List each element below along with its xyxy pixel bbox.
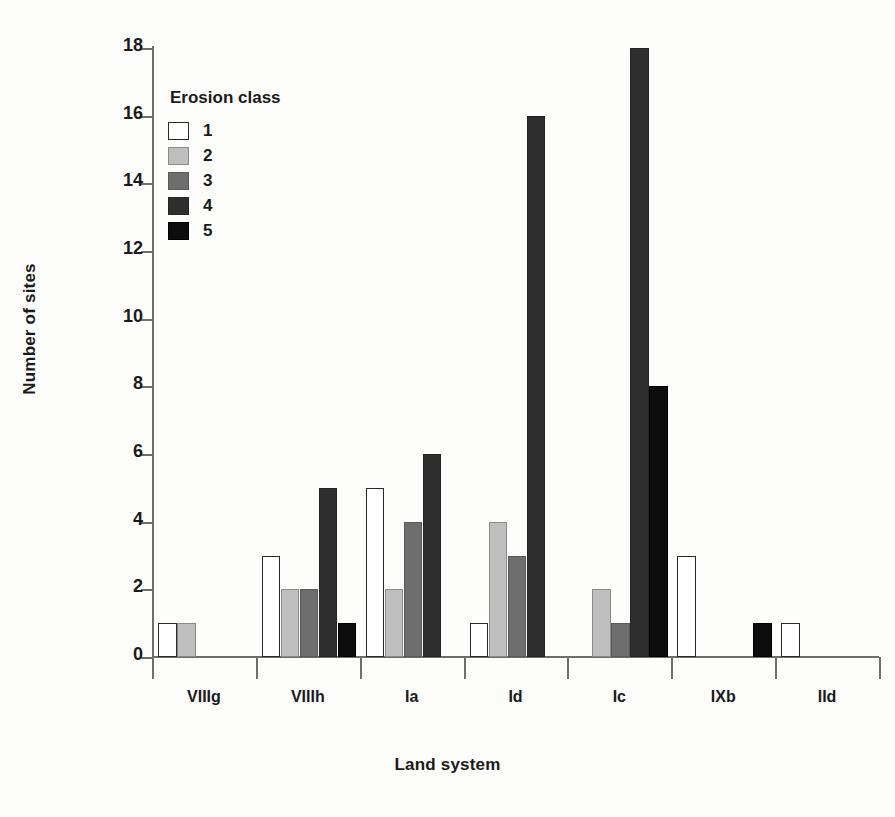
x-tick-mark — [775, 657, 777, 679]
x-category-label: IXb — [711, 688, 736, 706]
legend-rows: 12345 — [168, 118, 281, 243]
bar — [158, 623, 177, 657]
x-category-label: VIIIh — [291, 688, 325, 706]
legend-swatch — [168, 197, 189, 215]
bar — [177, 623, 196, 657]
bar — [753, 623, 772, 657]
bar — [649, 386, 668, 657]
bar — [262, 556, 281, 658]
x-category-label: Ia — [405, 688, 418, 706]
legend-label: 2 — [203, 147, 212, 164]
x-tick-mark — [567, 657, 569, 679]
legend-item: 3 — [168, 168, 281, 193]
bar — [385, 589, 404, 657]
bar — [366, 488, 385, 657]
y-tick-label: 14 — [123, 171, 143, 189]
y-tick-label: 18 — [123, 36, 143, 54]
x-category-label: IId — [818, 688, 837, 706]
bar — [470, 623, 489, 657]
x-tick-mark — [464, 657, 466, 679]
bar — [611, 623, 630, 657]
legend-label: 5 — [203, 222, 212, 239]
legend: Erosion class 12345 — [168, 88, 281, 243]
y-axis-title-text: Number of sites — [20, 263, 40, 394]
legend-item: 2 — [168, 143, 281, 168]
legend-label: 4 — [203, 197, 212, 214]
bar — [677, 556, 696, 658]
x-axis-title: Land system — [0, 755, 895, 775]
bar — [527, 116, 546, 657]
bar — [423, 454, 442, 657]
legend-label: 1 — [203, 122, 212, 139]
legend-item: 5 — [168, 218, 281, 243]
legend-swatch — [168, 172, 189, 190]
bar — [592, 589, 611, 657]
legend-label: 3 — [203, 172, 212, 189]
y-tick-label: 16 — [123, 104, 143, 122]
y-tick-label: 4 — [133, 510, 143, 528]
x-tick-mark — [256, 657, 258, 679]
bar — [508, 556, 527, 658]
bar-chart-figure: Number of sites 024681012141618 VIIIgVII… — [0, 0, 895, 817]
bar — [404, 522, 423, 657]
legend-title: Erosion class — [170, 88, 281, 108]
legend-item: 1 — [168, 118, 281, 143]
y-tick-label: 10 — [123, 307, 143, 325]
x-category-label: Ic — [613, 688, 626, 706]
legend-item: 4 — [168, 193, 281, 218]
y-tick-label: 12 — [123, 239, 143, 257]
x-axis-title-text: Land system — [394, 755, 500, 774]
legend-swatch — [168, 147, 189, 165]
y-axis-title: Number of sites — [10, 0, 50, 657]
bar — [300, 589, 319, 657]
bar — [781, 623, 800, 657]
legend-swatch — [168, 222, 189, 240]
x-tick-mark — [152, 657, 154, 679]
y-tick-label: 6 — [133, 442, 143, 460]
bar — [319, 488, 338, 657]
bar — [489, 522, 508, 657]
y-tick-label: 0 — [133, 645, 143, 663]
bar — [281, 589, 300, 657]
y-tick-label: 2 — [133, 577, 143, 595]
legend-swatch — [168, 122, 189, 140]
y-tick-label: 8 — [133, 374, 143, 392]
x-tick-mark — [671, 657, 673, 679]
bar — [338, 623, 357, 657]
bar — [630, 48, 649, 657]
x-category-label: Id — [508, 688, 522, 706]
x-tick-mark — [360, 657, 362, 679]
x-tick-mark — [879, 657, 881, 679]
x-category-label: VIIIg — [187, 688, 221, 706]
